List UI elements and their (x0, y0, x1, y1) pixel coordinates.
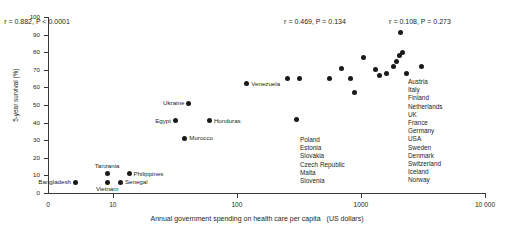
country-list-item: USA (408, 135, 442, 143)
country-list-item: Italy (408, 86, 442, 94)
data-point-label: Morocco (189, 135, 213, 141)
data-point-label: Senegal (125, 179, 148, 185)
data-point-label: Philippines (134, 171, 164, 177)
data-point (327, 76, 332, 81)
data-point (391, 64, 396, 69)
data-point-label: Tanzania (95, 163, 120, 169)
country-list-item: Iceland (408, 168, 442, 176)
y-tick-mark (44, 35, 49, 36)
correlation-annotation-stat-low: r = 0.882, P < 0.0001 (4, 18, 70, 25)
y-tick-mark (44, 175, 49, 176)
y-tick-mark (44, 105, 49, 106)
data-point-label: Bangladesh (38, 179, 71, 185)
x-tick-mark (361, 193, 362, 198)
data-point (244, 81, 249, 86)
data-point (398, 30, 403, 35)
data-point (297, 76, 302, 81)
country-list-item: Austria (408, 78, 442, 86)
x-tick-label: 10 000 (461, 202, 509, 209)
x-tick-label: 100 (213, 202, 261, 209)
y-tick-mark (44, 87, 49, 88)
data-point (339, 66, 344, 71)
data-point (373, 67, 378, 72)
y-tick-label: 90 (14, 32, 40, 38)
data-point (118, 180, 123, 185)
x-axis-origin-label: 0 (24, 202, 72, 209)
country-list-middle-countries: PolandEstoniaSlovakiaCzech RepublicMalta… (300, 136, 345, 185)
x-axis-units: (US dollars) (327, 215, 364, 222)
data-point (173, 118, 178, 123)
x-tick-label: 1000 (337, 202, 385, 209)
data-point (352, 90, 357, 95)
country-list-item: Czech Republic (300, 161, 345, 169)
data-point (377, 73, 382, 78)
country-list-item: UK (408, 111, 442, 119)
data-point (105, 171, 110, 176)
y-tick-mark (44, 123, 49, 124)
data-point (285, 76, 290, 81)
country-list-item: Sweden (408, 144, 442, 152)
data-point (207, 118, 212, 123)
country-list-item: Poland (300, 136, 345, 144)
y-tick-label: 30 (14, 137, 40, 143)
data-point (404, 71, 409, 76)
y-tick-mark (44, 70, 49, 71)
country-list-item: Netherlands (408, 103, 442, 111)
y-tick-mark (44, 193, 49, 194)
data-point (186, 101, 191, 106)
data-point (400, 50, 405, 55)
country-list-item: Norway (408, 176, 442, 184)
country-list-item: France (408, 119, 442, 127)
y-tick-mark (44, 158, 49, 159)
data-point (384, 71, 389, 76)
country-list-item: Switzerland (408, 160, 442, 168)
data-point (361, 55, 366, 60)
y-tick-label: 10 (14, 172, 40, 178)
country-list-item: Slovenia (300, 177, 345, 185)
data-point (105, 180, 110, 185)
data-point-label: Vietnam (96, 186, 119, 192)
data-point-label: Honduras (214, 118, 241, 124)
x-tick-mark (113, 193, 114, 198)
scatter-plot-figure: 0102030405060708090100 10100100010 0000 … (0, 0, 514, 249)
country-list-item: Finland (408, 94, 442, 102)
data-point-label: Ukraine (163, 100, 184, 106)
data-point (348, 76, 353, 81)
country-list-item: Slovakia (300, 152, 345, 160)
data-point (394, 59, 399, 64)
correlation-annotation-stat-high: r = 0.108, P = 0.273 (389, 18, 451, 25)
x-tick-mark (485, 193, 486, 198)
data-point (182, 136, 187, 141)
y-tick-mark (44, 52, 49, 53)
country-list-item: Estonia (300, 144, 345, 152)
correlation-annotation-stat-mid: r = 0.469, P = 0.134 (284, 18, 346, 25)
country-list-high-income-countries: AustriaItalyFinlandNetherlandsUKFranceGe… (408, 78, 442, 185)
y-axis-title: 5-year survival (%) (13, 55, 19, 135)
y-tick-label: 20 (14, 155, 40, 161)
x-tick-mark (237, 193, 238, 198)
data-point (73, 180, 78, 185)
data-point-label: Egypt (155, 118, 171, 124)
country-list-item: Germany (408, 127, 442, 135)
data-point-label: Venezuela (251, 81, 280, 87)
data-point (419, 64, 424, 69)
x-axis-title-text: Annual government spending on health car… (150, 215, 320, 222)
country-list-item: Malta (300, 169, 345, 177)
x-tick-label: 10 (89, 202, 137, 209)
data-point (127, 171, 132, 176)
y-tick-mark (44, 140, 49, 141)
country-list-item: Denmark (408, 152, 442, 160)
data-point (294, 117, 299, 122)
y-tick-label: 0 (14, 190, 40, 196)
x-axis-title: Annual government spending on health car… (0, 215, 514, 222)
